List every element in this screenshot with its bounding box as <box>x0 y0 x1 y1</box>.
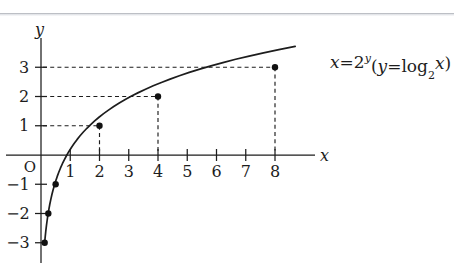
x-tick-label-7: 7 <box>241 162 251 181</box>
equation-log-arg: x <box>435 53 445 73</box>
data-point-8-3 <box>272 64 278 70</box>
x-tick-label-5: 5 <box>182 162 192 181</box>
y-axis-label: y <box>34 20 45 39</box>
y-tick-label-neg2: −2 <box>6 204 30 223</box>
equation-annotation: x=2y(y=log2x) <box>330 52 451 82</box>
data-point-4-2 <box>155 93 161 99</box>
origin-label: O <box>24 158 36 176</box>
x-tick-label-4: 4 <box>153 162 163 181</box>
data-point-eighth-neg3 <box>41 240 47 246</box>
equation-rhs-var: y <box>377 56 388 76</box>
x-tick-label-8: 8 <box>270 162 280 181</box>
equation-lhs-var: x <box>330 52 340 72</box>
curve-group <box>45 46 296 242</box>
data-point-half-neg1 <box>52 181 58 187</box>
data-point-quarter-neg2 <box>45 210 51 216</box>
x-tick-label-3: 3 <box>124 162 134 181</box>
equation-equals-2: = <box>387 56 401 76</box>
y-tick-label-neg1: −1 <box>6 175 30 194</box>
log-curve <box>45 46 296 242</box>
x-tick-label-2: 2 <box>94 162 104 181</box>
equation-open-paren: ( <box>371 56 378 76</box>
x-axis-label: x <box>320 146 329 165</box>
equation-log: log <box>401 56 428 76</box>
equation-log-base: 2 <box>428 69 435 82</box>
equation-close-paren: ) <box>445 53 452 73</box>
page-header-rule <box>0 13 454 16</box>
axes-group <box>6 38 315 263</box>
y-tick-label-2: 2 <box>19 87 29 106</box>
log-function-plot: 1 2 3 4 5 6 7 8 3 2 1 −1 −2 −3 O y x x=2… <box>0 0 454 263</box>
equation-equals-1: = <box>340 52 354 72</box>
equation-base: 2 <box>354 52 365 72</box>
x-tick-label-1: 1 <box>65 162 75 181</box>
x-tick-labels: 1 2 3 4 5 6 7 8 <box>65 162 280 181</box>
y-tick-label-neg3: −3 <box>6 233 30 252</box>
guide-lines <box>43 67 275 153</box>
x-tick-label-6: 6 <box>211 162 221 181</box>
y-tick-label-3: 3 <box>19 58 29 77</box>
data-point-2-1 <box>96 123 102 129</box>
y-tick-label-1: 1 <box>19 116 29 135</box>
page-ghost-text <box>2 0 122 11</box>
figure-container: 1 2 3 4 5 6 7 8 3 2 1 −1 −2 −3 O y x x=2… <box>0 0 454 263</box>
